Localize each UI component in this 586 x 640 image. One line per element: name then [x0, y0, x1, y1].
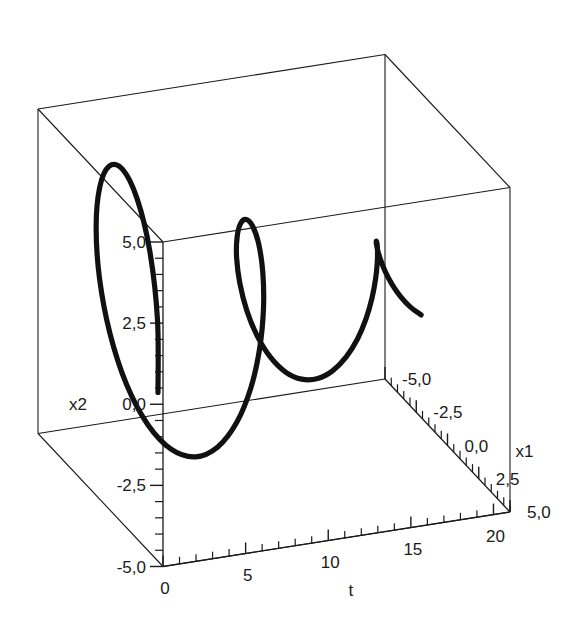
box-edge-top-back: [38, 55, 385, 110]
axis-title-x2: x2: [69, 395, 87, 414]
box-edge-top-right: [385, 55, 510, 188]
box-edge-bottom-back: [38, 379, 385, 434]
tick-label-x2-2: 0,0: [122, 395, 146, 414]
box-edge-top-front: [163, 188, 510, 243]
tick-label-x1-2: 0,0: [465, 437, 489, 456]
tick-label-t-2: 10: [321, 553, 340, 572]
tick-label-t-3: 15: [403, 540, 422, 559]
tick-label-x2-1: 2,5: [122, 314, 146, 333]
tick-label-x1-3: -2,5: [433, 403, 462, 422]
tick-label-x2-0: 5,0: [122, 233, 146, 252]
axis-title-t: t: [348, 581, 353, 600]
tick-label-x1-0: 5,0: [527, 503, 551, 522]
axis-title-x1: x1: [516, 442, 534, 461]
tick-label-t-4: 20: [486, 527, 505, 546]
tick-label-x2-3: -2,5: [117, 476, 146, 495]
tick-label-x1-4: -5,0: [402, 370, 431, 389]
tick-label-t-1: 5: [243, 566, 252, 585]
three-d-plot-svg: 05101520t5,02,50,0-2,5-5,0x15,02,50,0-2,…: [0, 0, 586, 640]
bounding-box: [38, 55, 510, 567]
tick-label-t-0: 0: [160, 579, 169, 598]
plot-canvas: 05101520t5,02,50,0-2,5-5,0x15,02,50,0-2,…: [0, 0, 586, 640]
tick-label-x2-4: -5,0: [117, 558, 146, 577]
tick-label-x1-1: 2,5: [496, 470, 520, 489]
box-edge-bottom-left: [38, 434, 163, 567]
